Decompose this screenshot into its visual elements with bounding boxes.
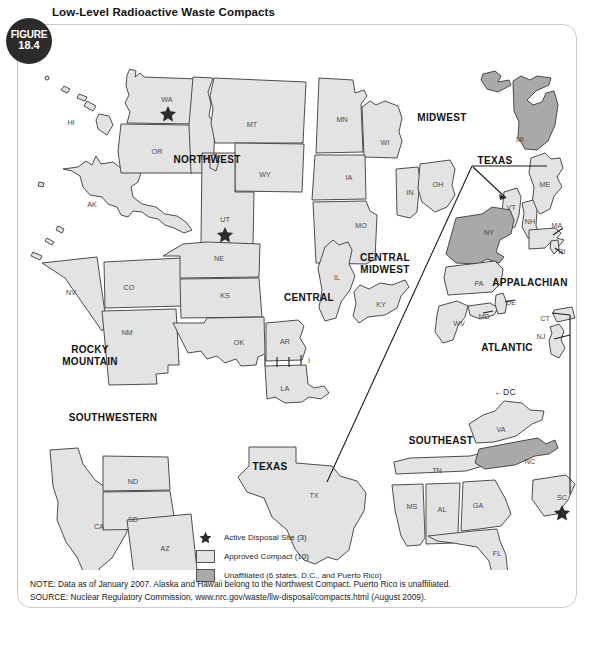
state-label-nm: NM xyxy=(121,328,132,337)
state-va xyxy=(469,401,544,443)
state-label-wy: WY xyxy=(259,170,271,179)
region-southwestern xyxy=(50,448,198,570)
state-label-md: MD xyxy=(478,312,489,321)
state-label-pa: PA xyxy=(474,279,483,288)
state-label-ri: RI xyxy=(558,247,565,256)
region-label-southeast-10: SOUTHEAST xyxy=(409,435,473,446)
state-label-oh: OH xyxy=(433,180,444,189)
state-label-me: ME xyxy=(540,180,551,189)
state-label-i: I xyxy=(308,356,310,365)
legend-label-disposal-site: Active Disposal Site (3) xyxy=(224,533,307,542)
page-title: Low-Level Radioactive Waste Compacts xyxy=(52,6,275,18)
state-label-ks: KS xyxy=(220,291,230,300)
compacts-map-svg: I xyxy=(17,30,577,570)
state-label-ct: CT xyxy=(540,314,550,323)
state-label-sc: SC xyxy=(557,493,567,502)
state-label-nv: NV xyxy=(66,288,76,297)
figure-badge-number: 18.4 xyxy=(18,40,39,52)
state-label-ny: NY xyxy=(484,228,494,237)
state-label-ky: KY xyxy=(376,300,386,309)
state-mt xyxy=(210,78,306,143)
region-midwest xyxy=(312,71,558,264)
region-label-texas-7: TEXAS xyxy=(478,155,513,166)
state-label-ia: IA xyxy=(346,173,353,182)
region-label-appalachian-8: APPALACHIAN xyxy=(492,277,567,288)
figure-panel: Low-Level Radioactive Waste Compacts FIG… xyxy=(0,0,597,649)
state-label-de: DE xyxy=(506,298,516,307)
state-ms xyxy=(392,484,425,546)
state-label-wa: WA xyxy=(161,95,173,104)
region-label-midwest-1: MIDWEST xyxy=(417,112,466,123)
state-label-tn: TN xyxy=(432,466,442,475)
state-label-ma: MA xyxy=(552,221,563,230)
state-label-la: LA xyxy=(281,384,290,393)
state-label-mi: MI xyxy=(516,135,524,144)
state-label-ar: AR xyxy=(280,337,290,346)
state-ia xyxy=(312,155,366,200)
region-label-northwest-0: NORTHWEST xyxy=(173,154,240,165)
state-label-vt: VT xyxy=(506,203,516,212)
state-sc xyxy=(532,475,575,516)
state-label-az: AZ xyxy=(160,544,170,553)
state-ga xyxy=(461,480,511,531)
state-label-ms: MS xyxy=(407,502,418,511)
legend-item-disposal-site: Active Disposal Site (3) xyxy=(196,528,382,547)
state-wy xyxy=(235,143,304,192)
state-label-nd: ND xyxy=(128,477,138,486)
state-label-ut: UT xyxy=(220,215,230,224)
region-label-central-3: CENTRAL xyxy=(284,292,334,303)
state-nj xyxy=(549,324,565,358)
state-label-fl: FL xyxy=(493,549,501,558)
state-ok xyxy=(173,317,265,366)
state-label-mn: MN xyxy=(336,115,347,124)
state-label-nh: NH xyxy=(525,217,535,226)
state-label-hi: HI xyxy=(67,118,74,127)
state-label-mo: MO xyxy=(355,221,367,230)
state-label-ca: CA xyxy=(94,522,104,531)
figure-notes: NOTE: Data as of January 2007. Alaska an… xyxy=(30,578,570,603)
state-nm xyxy=(102,309,179,385)
state-label-ok: OK xyxy=(234,338,245,347)
state-hi xyxy=(45,76,113,135)
state-label-wi: WI xyxy=(381,138,390,147)
region-label-texas-6: TEXAS xyxy=(253,461,288,472)
state-wi xyxy=(362,101,402,158)
source-line: SOURCE: Nuclear Regulatory Commission, w… xyxy=(30,591,570,604)
state-label-tx: TX xyxy=(309,491,318,500)
state-nv xyxy=(42,257,112,331)
state-label-co: CO xyxy=(124,283,135,292)
state-label-il: IL xyxy=(334,273,340,282)
region-central: I xyxy=(163,242,329,403)
state-label-mt: MT xyxy=(247,120,258,129)
state-label-al: AL xyxy=(438,505,447,514)
state-label-ga: GA xyxy=(473,501,484,510)
state-label-in: IN xyxy=(406,188,413,197)
region-label-southwestern-5: SOUTHWESTERN xyxy=(69,412,158,423)
star-icon xyxy=(196,531,215,544)
map-legend: Active Disposal Site (3) Approved Compac… xyxy=(196,528,382,585)
state-label-nj: NJ xyxy=(537,332,546,341)
region-label-atlantic-9: ATLANTIC xyxy=(481,342,533,353)
state-co xyxy=(104,258,183,308)
state-label-nc: NC xyxy=(525,457,535,466)
legend-label-approved-compact: Approved Compact (10) xyxy=(224,552,309,561)
dc-marker: ←DC xyxy=(494,387,516,397)
state-label-ne: NE xyxy=(214,254,224,263)
state-label-or: OR xyxy=(152,147,163,156)
state-label-sd: SD xyxy=(128,515,138,524)
region-southeast xyxy=(392,401,575,570)
state-label-va: VA xyxy=(496,425,505,434)
note-line: NOTE: Data as of January 2007. Alaska an… xyxy=(30,578,570,591)
figure-badge: FIGURE 18.4 xyxy=(6,18,52,64)
compact-swatch-icon xyxy=(196,550,215,563)
state-la xyxy=(265,365,329,403)
state-ny xyxy=(446,207,514,264)
state-label-wv: WV xyxy=(453,319,465,328)
region-label-central-midwest-2: CENTRALMIDWEST xyxy=(360,252,410,275)
map-canvas: I xyxy=(17,30,577,570)
state-label-ak: AK xyxy=(87,200,97,209)
legend-item-approved-compact: Approved Compact (10) xyxy=(196,547,382,566)
